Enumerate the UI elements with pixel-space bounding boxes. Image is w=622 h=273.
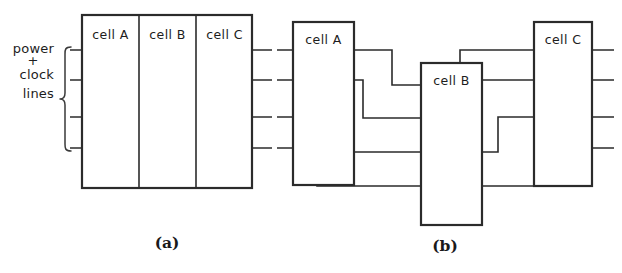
- caption-a: (a): [155, 233, 180, 252]
- power-clock-brace: [60, 47, 71, 151]
- panel-a-cell-label-b: cell B: [149, 27, 185, 42]
- panel-b-cell-label-b: cell B: [433, 73, 469, 88]
- annotation-line-clock: clock: [20, 67, 55, 82]
- panel-b-cell-label-a: cell A: [305, 32, 341, 47]
- figure-container: cell A cell B cell C power + clock lines…: [0, 0, 622, 273]
- panel-a-cell-label-a: cell A: [92, 27, 128, 42]
- panel-a-group: cell A cell B cell C power + clock lines: [13, 15, 272, 188]
- panel-b-cell-label-c: cell C: [545, 32, 582, 47]
- figure-canvas: cell A cell B cell C power + clock lines…: [0, 0, 622, 273]
- annotation-line-plus: +: [27, 53, 38, 68]
- annotation-line-lines: lines: [23, 86, 54, 101]
- panel-b-group: cell A cell B cell C: [277, 22, 614, 225]
- panel-a-cell-label-c: cell C: [206, 27, 243, 42]
- caption-b: (b): [432, 236, 458, 255]
